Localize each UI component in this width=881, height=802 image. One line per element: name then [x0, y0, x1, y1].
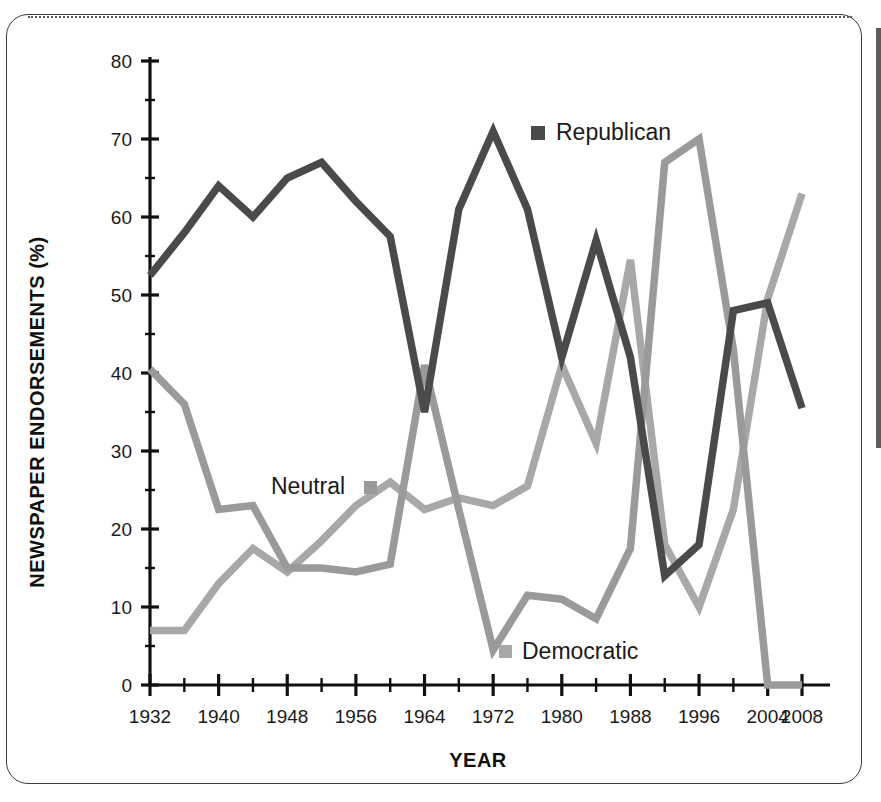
y-tick-label: 70 [111, 129, 132, 150]
legend-label-democratic: Democratic [522, 638, 638, 664]
y-tick-label: 0 [121, 675, 132, 696]
y-tick-label: 50 [111, 285, 132, 306]
x-tick-label: 1932 [129, 706, 171, 727]
y-tick-label: 80 [111, 51, 132, 72]
newspaper-endorsements-line-chart: 01020304050607080 1932194019481956196419… [0, 0, 881, 802]
legend-swatch-neutral [364, 481, 377, 494]
legend-item-neutral: Neutral [271, 473, 377, 499]
x-tick-label: 1988 [609, 706, 651, 727]
x-tick-label: 1964 [403, 706, 446, 727]
y-axis-tick-labels: 01020304050607080 [111, 51, 132, 696]
y-axis-title: NEWSPAPER ENDORSEMENTS (%) [26, 236, 48, 588]
x-tick-label: 2008 [781, 706, 823, 727]
x-axis-tick-labels: 1932194019481956196419721980198819962004… [129, 706, 823, 727]
legend-swatch-democratic [499, 645, 512, 658]
x-tick-label: 1948 [266, 706, 308, 727]
legend-item-republican: Republican [531, 119, 671, 145]
legend-item-democratic: Democratic [499, 638, 638, 664]
legend-swatch-republican [531, 126, 545, 140]
x-tick-label: 1972 [472, 706, 514, 727]
x-tick-label: 1996 [678, 706, 720, 727]
data-series-layer [150, 131, 802, 685]
x-axis-title: YEAR [449, 749, 507, 771]
y-tick-label: 30 [111, 441, 132, 462]
chart-svg: 01020304050607080 1932194019481956196419… [0, 0, 881, 802]
legend-label-republican: Republican [556, 119, 671, 145]
x-tick-label: 1956 [335, 706, 377, 727]
y-tick-label: 40 [111, 363, 132, 384]
y-tick-label: 60 [111, 207, 132, 228]
x-tick-label: 1980 [541, 706, 583, 727]
x-tick-label: 1940 [197, 706, 239, 727]
y-tick-label: 20 [111, 519, 132, 540]
y-tick-label: 10 [111, 597, 132, 618]
legend-label-neutral: Neutral [271, 473, 345, 499]
